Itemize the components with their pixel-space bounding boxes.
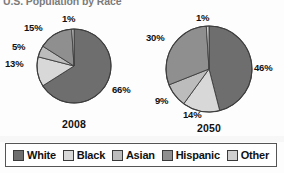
legend-label-white: White xyxy=(27,149,56,161)
pie-chart-2008 xyxy=(36,28,112,104)
scan-noise-band xyxy=(0,136,284,142)
legend-label-hispanic: Hispanic xyxy=(176,149,220,161)
pie-chart-2050 xyxy=(165,25,253,113)
pct-2008-white: 66% xyxy=(112,84,130,95)
year-label-2008: 2008 xyxy=(36,118,112,130)
legend-label-other: Other xyxy=(241,149,269,161)
pct-2050-other: 1% xyxy=(196,12,209,23)
legend-item-hispanic[interactable]: Hispanic xyxy=(162,149,220,161)
pct-2008-asian: 5% xyxy=(12,41,25,52)
legend-swatch-white-icon xyxy=(13,150,24,161)
year-label-2050: 2050 xyxy=(165,122,253,134)
chart-page: U.S. Population by Race 2008 66% 13% 5% … xyxy=(0,0,284,173)
legend-swatch-other-icon xyxy=(227,150,238,161)
legend: White Black Asian Hispanic Other xyxy=(5,143,277,167)
legend-swatch-black-icon xyxy=(63,150,74,161)
pct-2050-white: 46% xyxy=(254,62,272,73)
pct-2008-other: 1% xyxy=(62,13,75,24)
legend-label-black: Black xyxy=(77,149,105,161)
legend-item-asian[interactable]: Asian xyxy=(112,149,155,161)
pct-2050-black: 14% xyxy=(183,109,201,120)
pie-2050-svg xyxy=(165,25,253,113)
pct-2008-hispanic: 15% xyxy=(24,22,42,33)
legend-swatch-asian-icon xyxy=(112,150,123,161)
legend-label-asian: Asian xyxy=(126,149,155,161)
legend-item-black[interactable]: Black xyxy=(63,149,105,161)
pct-2050-hispanic: 30% xyxy=(146,32,164,43)
pct-2008-black: 13% xyxy=(5,58,23,69)
pie-2008-svg xyxy=(36,28,112,104)
legend-item-other[interactable]: Other xyxy=(227,149,269,161)
page-title: U.S. Population by Race xyxy=(3,0,121,7)
pct-2050-asian: 9% xyxy=(155,95,168,106)
legend-item-white[interactable]: White xyxy=(13,149,56,161)
legend-swatch-hispanic-icon xyxy=(162,150,173,161)
